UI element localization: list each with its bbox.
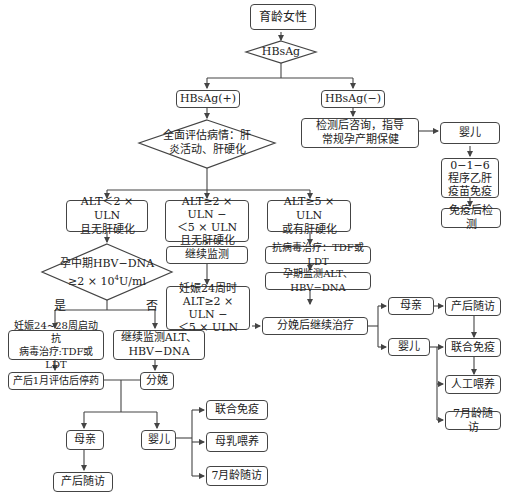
neg-test-node: 免疫后检测 (441, 208, 501, 228)
delivery-node: 分娩 (140, 372, 174, 390)
alt-high-node: ALT≥5 × ULN 或有肝硬化 (267, 200, 351, 232)
no-monitor-node: 继续监测ALT、 HBV−DNA (113, 330, 205, 360)
ct-mother-node: 母亲 (388, 297, 434, 315)
low-infant-node: 婴儿 (141, 430, 176, 450)
dna-unit: U/ml (119, 275, 146, 288)
assess-decision: 全面评估病情：肝 炎活动、肝硬化 (155, 128, 259, 158)
dna-decision-line2: ≥2 × 104U/ml (68, 271, 146, 289)
ct-7month-followup-node: 7月龄随访 (445, 411, 501, 430)
yes-label: 是 (54, 296, 66, 313)
dna-decision-line1: 孕中期HBV−DNA (60, 257, 154, 271)
neg-consult-node: 检测后咨询，指导 常规孕产期保健 (301, 118, 419, 148)
high-monitor-node: 孕期监测ALT、HBV−DNA (265, 272, 371, 290)
dna-decision: 孕中期HBV−DNA ≥2 × 104U/ml (52, 258, 162, 288)
continue-treatment-node: 分娩后继续治疗 (262, 317, 368, 335)
ct-joint-immune-node: 联合免疫 (445, 338, 501, 357)
alt-mid-node: ALT≥2 × ULN − ＜5 × ULN 且无肝硬化 (165, 200, 249, 242)
hbsag-decision: HBsAg (246, 44, 316, 60)
dna-threshold: ≥2 × 10 (68, 275, 114, 288)
low-7month-followup-node: 7月龄随访 (206, 466, 268, 486)
ct-mother-followup-node: 产后随访 (445, 297, 501, 316)
flowchart-connectors (0, 0, 508, 504)
alt-low-node: ALT＜2 × ULN 且无肝硬化 (66, 200, 148, 232)
yes-treatment-node: 妊娠24~28周启动抗 病毒治疗:TDF或LDT (8, 330, 104, 360)
mid-24week-node: 妊娠24周时 ALT≥2 × ULN − ＜5 × ULN (166, 286, 250, 330)
hbsag-negative-node: HBsAg(−) (321, 90, 385, 108)
mid-monitor-node: 继续监测 (166, 246, 248, 264)
no-label: 否 (146, 296, 158, 313)
low-joint-immune-node: 联合免疫 (206, 400, 268, 420)
low-mother-node: 母亲 (66, 430, 104, 450)
ct-formula-feeding-node: 人工喂养 (445, 375, 501, 394)
stop-drug-node: 产后1月评估后停药 (8, 372, 104, 390)
start-node: 育龄女性 (250, 4, 316, 30)
neg-infant-node: 婴儿 (440, 122, 500, 144)
low-breastfeed-node: 母乳喂养 (206, 432, 268, 452)
ct-infant-node: 婴儿 (388, 338, 430, 356)
hbsag-positive-node: HBsAg(+) (176, 90, 240, 108)
neg-vaccine-node: 0−1−6 程序乙肝 疫苗免疫 (441, 158, 499, 198)
high-antiviral-node: 抗病毒治疗：TDF或LDT (265, 246, 371, 264)
low-mother-followup-node: 产后随访 (53, 472, 113, 492)
